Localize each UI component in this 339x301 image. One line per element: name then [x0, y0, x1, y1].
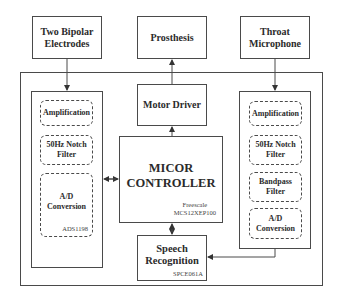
- connector-lines: [0, 0, 339, 301]
- arrow-audio-to-speech: [208, 249, 275, 257]
